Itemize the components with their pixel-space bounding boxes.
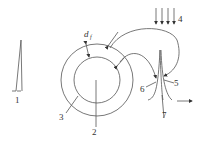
label-2: 2: [92, 127, 97, 137]
inner-circle: [74, 57, 120, 103]
label-d: d: [84, 29, 89, 39]
label-4: 4: [178, 14, 183, 24]
label-3: 3: [59, 112, 64, 122]
label-6: 6: [140, 84, 145, 94]
label-7: 7: [162, 110, 167, 120]
spike-1: [12, 40, 22, 91]
label-5: 5: [174, 78, 179, 88]
diagram-svg: 1 2 3 d f 4: [0, 0, 200, 145]
ring-assembly: [61, 44, 133, 127]
diagram-canvas: 1 2 3 d f 4: [0, 0, 200, 145]
label-d-sub: f: [90, 34, 93, 40]
label-1: 1: [15, 95, 20, 105]
leader-3: [66, 96, 78, 113]
curved-arrows: [108, 29, 179, 78]
peak-567: [146, 50, 174, 118]
arrows-4: [156, 8, 174, 24]
thickness-dimension: [86, 44, 89, 57]
